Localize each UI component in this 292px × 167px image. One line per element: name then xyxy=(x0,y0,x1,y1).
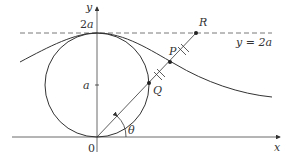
label-P: P xyxy=(168,45,177,58)
label-theta: θ xyxy=(128,124,135,137)
ray-origin-to-R xyxy=(97,33,196,137)
diagram-canvas: y x 2a a 0 R P Q θ y = 2a xyxy=(0,0,292,167)
theta-arc xyxy=(117,116,126,137)
x-axis-label: x xyxy=(274,141,281,154)
curve-witch-of-agnesi xyxy=(20,33,272,97)
point-R xyxy=(194,31,198,35)
label-line-equation: y = 2a xyxy=(235,36,272,49)
label-R: R xyxy=(198,16,207,29)
label-a: a xyxy=(83,79,90,92)
witch-of-agnesi-diagram: y x 2a a 0 R P Q θ y = 2a xyxy=(0,0,292,167)
origin-label: 0 xyxy=(88,142,95,155)
point-Q xyxy=(147,81,151,85)
point-P xyxy=(168,60,172,64)
label-2a: 2a xyxy=(80,18,94,31)
label-Q: Q xyxy=(153,84,162,97)
y-axis-label: y xyxy=(85,1,93,14)
